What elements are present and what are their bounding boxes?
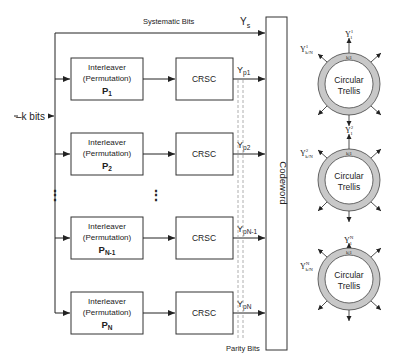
systematic-output-label: Ys <box>240 16 251 29</box>
branch-n-1: Interleaver (Permutation) PN-1 CRSC YpN-… <box>55 217 265 259</box>
svg-text:(Permutation): (Permutation) <box>83 233 132 242</box>
svg-text:Trellis: Trellis <box>338 182 360 192</box>
branch-2: Interleaver (Permutation) P2 CRSC Yp2 <box>55 133 265 175</box>
svg-text:Trellis: Trellis <box>338 281 360 291</box>
circular-trellis-n: k|1 Circular Trellis YN1 YNk/N <box>300 235 381 321</box>
branch-n: Interleaver (Permutation) PN CRSC YpN <box>55 292 265 334</box>
branch-1: Interleaver (Permutation) P1 CRSC Yp1 <box>55 58 265 100</box>
trellis-2-top-label: Y21 <box>345 125 354 136</box>
svg-text:(Permutation): (Permutation) <box>83 149 132 158</box>
ellipsis-left: ⋮ <box>48 187 62 203</box>
parity-bits-label: Parity Bits <box>226 344 260 353</box>
parity-output-label-n-1: YpN-1 <box>237 224 257 236</box>
input-label: –k bits <box>16 111 45 122</box>
circular-trellis-1: k|1 Circular Trellis Y11 Y1k/N <box>300 29 381 126</box>
codeword-box: Codeword <box>266 17 289 350</box>
svg-text:CRSC: CRSC <box>192 149 216 159</box>
svg-text:CRSC: CRSC <box>192 308 216 318</box>
svg-text:Interleaver: Interleaver <box>88 297 126 306</box>
svg-text:CRSC: CRSC <box>192 233 216 243</box>
svg-text:k|1: k|1 <box>346 250 353 255</box>
svg-text:CRSC: CRSC <box>192 74 216 84</box>
svg-text:Circular: Circular <box>334 171 363 181</box>
trellis-1-side-label: Y1k/N <box>300 44 313 55</box>
turbo-encoder-diagram: –k bits Systematic Bits Ys Interleaver (… <box>0 0 404 364</box>
svg-text:Interleaver: Interleaver <box>88 138 126 147</box>
codeword-label: Codeword <box>278 161 289 204</box>
svg-text:Trellis: Trellis <box>338 86 360 96</box>
parity-output-label-n: YpN <box>237 299 252 311</box>
systematic-path: Systematic Bits Ys <box>55 16 265 33</box>
circular-trellis-2: k|1 Circular Trellis Y21 Y2k/N <box>300 125 381 222</box>
svg-text:(Permutation): (Permutation) <box>83 308 132 317</box>
input-arrow: –k bits <box>14 110 54 122</box>
svg-text:k|1: k|1 <box>346 151 353 156</box>
svg-text:Interleaver: Interleaver <box>88 222 126 231</box>
ellipsis-middle: ⋮ <box>149 187 163 203</box>
svg-text:Interleaver: Interleaver <box>88 63 126 72</box>
parity-output-label-2: Yp2 <box>237 140 251 152</box>
trellis-2-side-label: Y2k/N <box>300 148 313 159</box>
svg-text:Circular: Circular <box>334 75 363 85</box>
svg-text:(Permutation): (Permutation) <box>83 74 132 83</box>
trellis-n-top-label: YN1 <box>344 235 354 246</box>
parity-output-label-1: Yp1 <box>237 65 251 77</box>
svg-text:Circular: Circular <box>334 270 363 280</box>
systematic-label: Systematic Bits <box>143 17 195 26</box>
trellis-1-top-label: Y11 <box>345 29 354 40</box>
trellis-n-side-label: YNk/N <box>300 261 313 272</box>
svg-text:k|1: k|1 <box>346 55 353 60</box>
